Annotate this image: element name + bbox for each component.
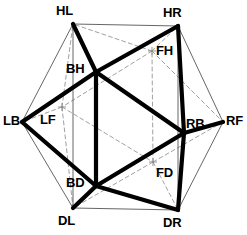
vertex-label-FH: FH [156,44,173,57]
hidden-edge-FH-RF [152,51,223,122]
vertex-label-BD: BD [66,176,84,189]
bold-edge-RB-DR [178,133,184,210]
bold-edge-RB-HR [178,26,184,133]
vertex-label-FD: FD [156,166,173,179]
vertex-label-RB: RB [186,117,204,130]
diagram-canvas: HLHRRFDRDLLBBHRBBDFHLFFD [0,0,247,235]
bold-edge-BD-LB [22,122,96,186]
vertex-label-HL: HL [56,4,73,17]
vertex-label-BH: BH [66,62,84,75]
vertex-label-RF: RF [226,114,243,127]
vertex-label-HR: HR [163,6,181,19]
vertex-label-LB: LB [3,114,20,127]
thin-edge-DR-DL [73,208,178,210]
vertex-label-DL: DL [58,214,75,227]
vertex-label-LF: LF [40,113,55,126]
hidden-edge-LF-FD [62,107,153,162]
hidden-edge-FD-FH [152,51,153,162]
thin-edge-HL-HR [73,24,178,26]
bold-edge-BD-DR [96,186,178,210]
bold-edge-BH-RB [96,72,184,133]
bold-edge-BH-LB [22,72,96,122]
thin-edge-HR-RF [178,26,223,122]
vertex-label-DR: DR [163,216,181,229]
cross-marker-icon-LF [58,103,66,111]
polyhedron-wireframe-svg [0,0,247,235]
